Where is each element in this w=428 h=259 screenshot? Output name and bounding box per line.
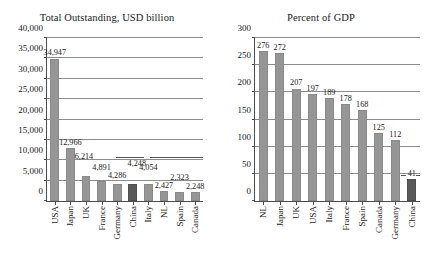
bar-italy[interactable] [325, 98, 334, 201]
x-axis-tick-mark [63, 201, 79, 205]
bar-cell: 4,286 [109, 38, 125, 201]
x-axis-category-label: Japan [65, 206, 75, 227]
x-axis-tick-mark [321, 201, 338, 205]
chart-panel-total-outstanding: Total Outstanding, USD billion 05,00010,… [0, 0, 214, 259]
bar-usa[interactable] [308, 94, 317, 201]
bar-cell: 6,214 [78, 38, 94, 201]
bar-value-label: 4,054 [139, 164, 157, 172]
bar-nl[interactable] [160, 191, 169, 201]
bar-value-label: 207 [290, 79, 302, 87]
bar-italy[interactable] [144, 184, 153, 201]
y-axis-tick-label: 40,000 [18, 23, 43, 33]
x-axis-category-label: China [128, 206, 138, 228]
y-axis-tick-label: 25,000 [18, 84, 43, 94]
bar-value-label: 168 [356, 101, 368, 109]
y-axis-tick-label: 15,000 [18, 125, 43, 135]
y-axis-tick-label: 35,000 [18, 43, 43, 53]
bar-canada[interactable] [191, 192, 200, 201]
x-axis-tick-mark [94, 201, 110, 205]
x-axis-category-label: USA [308, 206, 318, 224]
x-axis-category-label: UK [291, 206, 301, 219]
bar-cell: 189 [321, 38, 338, 201]
bar-japan[interactable] [275, 53, 284, 201]
x-axis-label-cell: China [404, 206, 421, 259]
x-axis-label-cell: Canada [187, 206, 203, 259]
x-axis-category-label: Germany [112, 206, 122, 240]
bar-value-label: 2,248 [186, 183, 204, 191]
bar-usa[interactable] [50, 59, 59, 201]
x-axis-category-label: Spain [175, 206, 185, 227]
chart-title-right: Percent of GDP [214, 12, 428, 23]
bar-cell: 272 [272, 38, 289, 201]
bar-value-label: 197 [307, 85, 319, 93]
y-axis-tick-label: 100 [238, 132, 252, 142]
x-axis-label-cell: France [338, 206, 355, 259]
bar-china[interactable] [128, 184, 137, 201]
x-axis-category-label: Canada [374, 206, 384, 233]
bar-value-label: 272 [274, 44, 286, 52]
label-leader-line [416, 175, 420, 176]
x-axis-label-cell: USA [47, 206, 63, 259]
x-axis-tick-mark [288, 201, 305, 205]
y-axis-tick-label: 50 [242, 159, 251, 169]
bar-spain[interactable] [358, 110, 367, 201]
bar-france[interactable] [97, 181, 106, 201]
bar-canada[interactable] [374, 133, 383, 201]
x-axis-category-label: Spain [357, 206, 367, 227]
bar-cell: 125 [371, 38, 388, 201]
x-axis-label-cell: Italy [321, 206, 338, 259]
x-axis-label-cell: UK [78, 206, 94, 259]
bar-spain[interactable] [175, 192, 184, 201]
bar-china[interactable] [407, 179, 416, 201]
x-axis-category-label: NL [159, 206, 169, 218]
x-axis-ticks [255, 201, 420, 205]
bar-nl[interactable] [259, 51, 268, 201]
y-axis-tick-label: 20,000 [18, 105, 43, 115]
plot-area-right: 0501001502002503002762722071971891781681… [254, 38, 420, 202]
y-axis-tick-label: 200 [238, 77, 252, 87]
x-axis-category-label: Germany [390, 206, 400, 240]
x-axis-label-cell: Japan [63, 206, 79, 259]
x-axis-label-cell: USA [305, 206, 322, 259]
x-axis-tick-mark [354, 201, 371, 205]
x-axis-label-cell: UK [288, 206, 305, 259]
y-axis-tick-label: 0 [39, 186, 44, 196]
x-axis-tick-mark [305, 201, 322, 205]
x-axis-tick-mark [125, 201, 141, 205]
bar-cell: 207 [288, 38, 305, 201]
bar-cell: 168 [354, 38, 371, 201]
bar-value-label: 189 [323, 89, 335, 97]
bar-germany[interactable] [113, 184, 122, 201]
chart-panel-percent-of-gdp: Percent of GDP 0501001502002503002762722… [214, 0, 428, 259]
bar-japan[interactable] [66, 148, 75, 201]
bar-value-label: 41 [408, 170, 416, 178]
x-axis-label-cell: France [94, 206, 110, 259]
bar-cell: 34,947 [47, 38, 63, 201]
x-axis-category-label: France [97, 206, 107, 231]
y-axis-tick-label: 0 [247, 186, 252, 196]
bar-value-label: 178 [340, 95, 352, 103]
bar-germany[interactable] [391, 140, 400, 201]
y-axis-tick-label: 250 [238, 50, 252, 60]
bar-uk[interactable] [82, 176, 91, 201]
x-axis-category-label: Canada [190, 206, 200, 233]
x-axis-category-label: Japan [275, 206, 285, 227]
bar-series: 27627220719718917816812511241 [255, 38, 420, 201]
bar-value-label: 112 [389, 131, 401, 139]
x-axis-labels: NLJapanUKUSAItalyFranceSpainCanadaGerman… [255, 206, 420, 259]
x-axis-tick-mark [255, 201, 272, 205]
bar-france[interactable] [341, 104, 350, 201]
bar-cell: 12,966 [63, 38, 79, 201]
x-axis-tick-mark [109, 201, 125, 205]
bar-cell: 4,248 [125, 38, 141, 201]
label-leader-line [116, 157, 144, 158]
bar-value-label: 125 [373, 124, 385, 132]
y-axis-tick-label: 150 [238, 105, 252, 115]
x-axis-label-cell: Germany [387, 206, 404, 259]
x-axis-labels: USAJapanUKFranceGermanyChinaItalyNLSpain… [47, 206, 203, 259]
x-axis-label-cell: Italy [141, 206, 157, 259]
bar-cell: 2,323 [172, 38, 188, 201]
x-axis-label-cell: China [125, 206, 141, 259]
bar-uk[interactable] [292, 89, 301, 201]
x-axis-ticks [47, 201, 203, 205]
